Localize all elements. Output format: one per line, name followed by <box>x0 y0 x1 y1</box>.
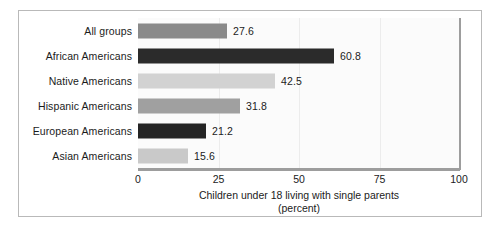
x-axis-title: Children under 18 living with single par… <box>138 189 460 215</box>
bar-native-americans <box>138 73 275 88</box>
bar-all-groups <box>138 23 227 38</box>
bar-hispanic-americans <box>138 98 240 113</box>
x-tick-50: 50 <box>293 173 305 185</box>
x-tick-100: 100 <box>450 173 468 185</box>
x-tick-0: 0 <box>135 173 141 185</box>
value-label-asian-americans: 15.6 <box>194 150 215 162</box>
value-label-native-americans: 42.5 <box>281 75 302 87</box>
bar-chart: All groups 27.6 African Americans 60.8 N… <box>0 0 498 230</box>
category-label-hispanic-americans: Hispanic Americans <box>38 100 132 112</box>
x-tick-25: 25 <box>213 173 225 185</box>
x-axis-title-line1: Children under 18 living with single par… <box>199 189 399 201</box>
bar-row: Asian Americans 15.6 <box>0 143 498 168</box>
value-label-all-groups: 27.6 <box>233 25 254 37</box>
value-label-hispanic-americans: 31.8 <box>246 100 267 112</box>
x-tick-75: 75 <box>374 173 386 185</box>
bar-row: European Americans 21.2 <box>0 118 498 143</box>
value-label-african-americans: 60.8 <box>340 50 361 62</box>
bar-asian-americans <box>138 148 188 163</box>
bar-european-americans <box>138 123 206 138</box>
figure: All groups 27.6 African Americans 60.8 N… <box>0 0 498 230</box>
bar-row: Hispanic Americans 31.8 <box>0 93 498 118</box>
x-axis-line <box>138 168 460 171</box>
value-label-european-americans: 21.2 <box>212 125 233 137</box>
bar-african-americans <box>138 48 334 63</box>
category-label-european-americans: European Americans <box>33 125 132 137</box>
category-label-all-groups: All groups <box>84 25 132 37</box>
x-axis-title-units: (percent) <box>138 202 460 215</box>
bar-row: All groups 27.6 <box>0 18 498 43</box>
category-label-asian-americans: Asian Americans <box>52 150 132 162</box>
category-label-african-americans: African Americans <box>46 50 132 62</box>
category-label-native-americans: Native Americans <box>49 75 132 87</box>
bar-row: African Americans 60.8 <box>0 43 498 68</box>
bar-row: Native Americans 42.5 <box>0 68 498 93</box>
